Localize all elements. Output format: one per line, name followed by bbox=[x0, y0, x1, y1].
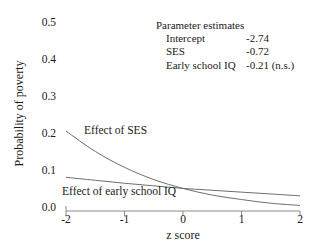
parameter-estimates-title: Parameter estimates bbox=[148, 19, 294, 32]
y-tick-label-0.3: 0.3 bbox=[26, 90, 56, 102]
x-axis-title: z score bbox=[103, 228, 263, 243]
series-label-early-school-iq: Effect of early school IQ bbox=[62, 185, 176, 197]
parameter-name-intercept: Intercept bbox=[166, 32, 246, 45]
x-tick-label--2: -2 bbox=[51, 213, 81, 225]
parameter-estimates-box: Parameter estimates Intercept-2.74 SES-0… bbox=[148, 19, 294, 72]
y-tick-label-0.1: 0.1 bbox=[26, 164, 56, 176]
x-tick-label-1: 1 bbox=[227, 213, 257, 225]
x-tick-label--1: -1 bbox=[110, 213, 140, 225]
parameter-value-intercept: -2.74 bbox=[246, 32, 269, 45]
y-tick-label-0.4: 0.4 bbox=[26, 53, 56, 65]
parameter-row-ses: SES-0.72 bbox=[148, 45, 294, 58]
chart-figure: 0.5 0.4 0.3 0.2 0.1 0.0 -2 -1 0 1 2 Prob… bbox=[0, 0, 313, 250]
parameter-value-early-school-iq: -0.21 (n.s.) bbox=[246, 59, 294, 72]
parameter-value-ses: -0.72 bbox=[246, 45, 269, 58]
x-tick-label-0: 0 bbox=[168, 213, 198, 225]
parameter-row-intercept: Intercept-2.74 bbox=[148, 32, 294, 45]
parameter-name-ses: SES bbox=[166, 45, 246, 58]
y-tick-label-0.0: 0.0 bbox=[26, 201, 56, 213]
y-axis-title: Probability of poverty bbox=[12, 44, 27, 184]
x-tick-label-2: 2 bbox=[285, 213, 313, 225]
parameter-name-early-school-iq: Early school IQ bbox=[166, 59, 246, 72]
y-tick-label-0.5: 0.5 bbox=[26, 16, 56, 28]
series-label-ses: Effect of SES bbox=[84, 124, 147, 136]
parameter-row-early-school-iq: Early school IQ-0.21 (n.s.) bbox=[148, 59, 294, 72]
y-tick-label-0.2: 0.2 bbox=[26, 127, 56, 139]
